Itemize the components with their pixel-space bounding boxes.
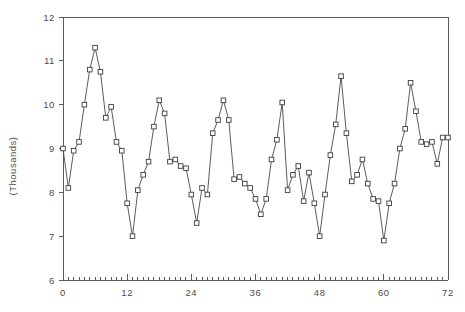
data-point — [157, 98, 162, 103]
data-point — [414, 109, 419, 114]
data-point — [435, 162, 440, 167]
x-axis-tick-labels: 0122436486072 — [60, 287, 454, 298]
data-point — [152, 124, 157, 129]
data-point — [184, 166, 189, 171]
data-point — [93, 45, 98, 50]
data-point — [269, 157, 274, 162]
data-series-group — [61, 45, 451, 242]
x-tick-label-72: 72 — [442, 287, 454, 298]
data-point — [82, 102, 87, 107]
data-point — [109, 105, 114, 110]
data-point — [178, 164, 183, 169]
data-point — [98, 69, 103, 74]
y-tick-label-9: 9 — [49, 143, 55, 154]
data-point — [141, 173, 146, 178]
data-point — [291, 173, 296, 178]
data-point — [66, 186, 71, 191]
data-point — [136, 188, 141, 193]
data-point — [285, 188, 290, 193]
x-tick-label-60: 60 — [378, 287, 390, 298]
data-point — [243, 181, 248, 186]
data-point — [382, 238, 387, 243]
data-point — [210, 131, 215, 136]
data-point — [71, 148, 76, 153]
data-point — [130, 234, 135, 239]
data-point — [200, 186, 205, 191]
data-point — [61, 146, 66, 151]
data-point — [253, 197, 258, 202]
data-point — [103, 116, 108, 121]
y-tick-label-8: 8 — [49, 187, 55, 198]
data-point — [312, 201, 317, 206]
x-tick-label-12: 12 — [121, 287, 133, 298]
series-line — [63, 48, 448, 241]
data-point — [376, 199, 381, 204]
data-point — [280, 100, 285, 105]
y-axis-tick-labels: 6789101112 — [43, 12, 55, 286]
data-point — [221, 98, 226, 103]
data-point — [339, 74, 344, 79]
data-point — [189, 192, 194, 197]
data-point — [226, 118, 231, 123]
data-point — [194, 221, 199, 226]
data-point — [349, 179, 354, 184]
data-point — [77, 140, 82, 145]
data-point — [323, 192, 328, 197]
x-tick-label-36: 36 — [250, 287, 262, 298]
y-tick-label-7: 7 — [49, 231, 55, 242]
data-point — [317, 234, 322, 239]
y-tick-label-6: 6 — [49, 275, 55, 286]
data-point — [419, 140, 424, 145]
data-point — [173, 157, 178, 162]
data-point — [408, 80, 413, 85]
data-point — [301, 199, 306, 204]
x-axis-major-ticks — [63, 274, 448, 280]
data-point — [328, 153, 333, 158]
data-point — [333, 122, 338, 127]
data-point — [430, 140, 435, 145]
data-point — [275, 137, 280, 142]
data-point — [403, 126, 408, 131]
data-point — [120, 148, 125, 153]
data-point — [205, 192, 210, 197]
data-point — [392, 181, 397, 186]
data-point — [264, 197, 269, 202]
data-point — [296, 164, 301, 169]
data-point — [87, 67, 92, 72]
data-point — [114, 140, 119, 145]
data-point — [146, 159, 151, 164]
data-point — [424, 142, 429, 147]
data-point — [237, 175, 242, 180]
x-tick-label-0: 0 — [60, 287, 66, 298]
data-point — [216, 118, 221, 123]
series-markers — [61, 45, 451, 242]
data-point — [307, 170, 312, 175]
data-point — [446, 135, 451, 140]
y-axis-title-text: (Thousands) — [7, 137, 18, 196]
data-point — [365, 181, 370, 186]
data-point — [387, 201, 392, 206]
data-point — [168, 159, 173, 164]
data-point — [360, 157, 365, 162]
line-chart: 6789101112 0122436486072 (Thousands) — [0, 0, 465, 312]
data-point — [125, 201, 130, 206]
data-point — [371, 197, 376, 202]
data-point — [248, 186, 253, 191]
data-point — [162, 111, 167, 116]
x-tick-label-48: 48 — [314, 287, 326, 298]
data-point — [398, 146, 403, 151]
chart-canvas: 6789101112 0122436486072 (Thousands) — [0, 0, 465, 312]
y-axis-title: (Thousands) — [7, 137, 18, 196]
data-point — [344, 131, 349, 136]
y-tick-label-11: 11 — [44, 55, 55, 66]
data-point — [440, 135, 445, 140]
data-point — [232, 177, 237, 182]
data-point — [355, 173, 360, 178]
y-tick-label-10: 10 — [43, 99, 55, 110]
data-point — [259, 212, 264, 217]
y-tick-label-12: 12 — [43, 12, 55, 23]
x-tick-label-24: 24 — [185, 287, 197, 298]
